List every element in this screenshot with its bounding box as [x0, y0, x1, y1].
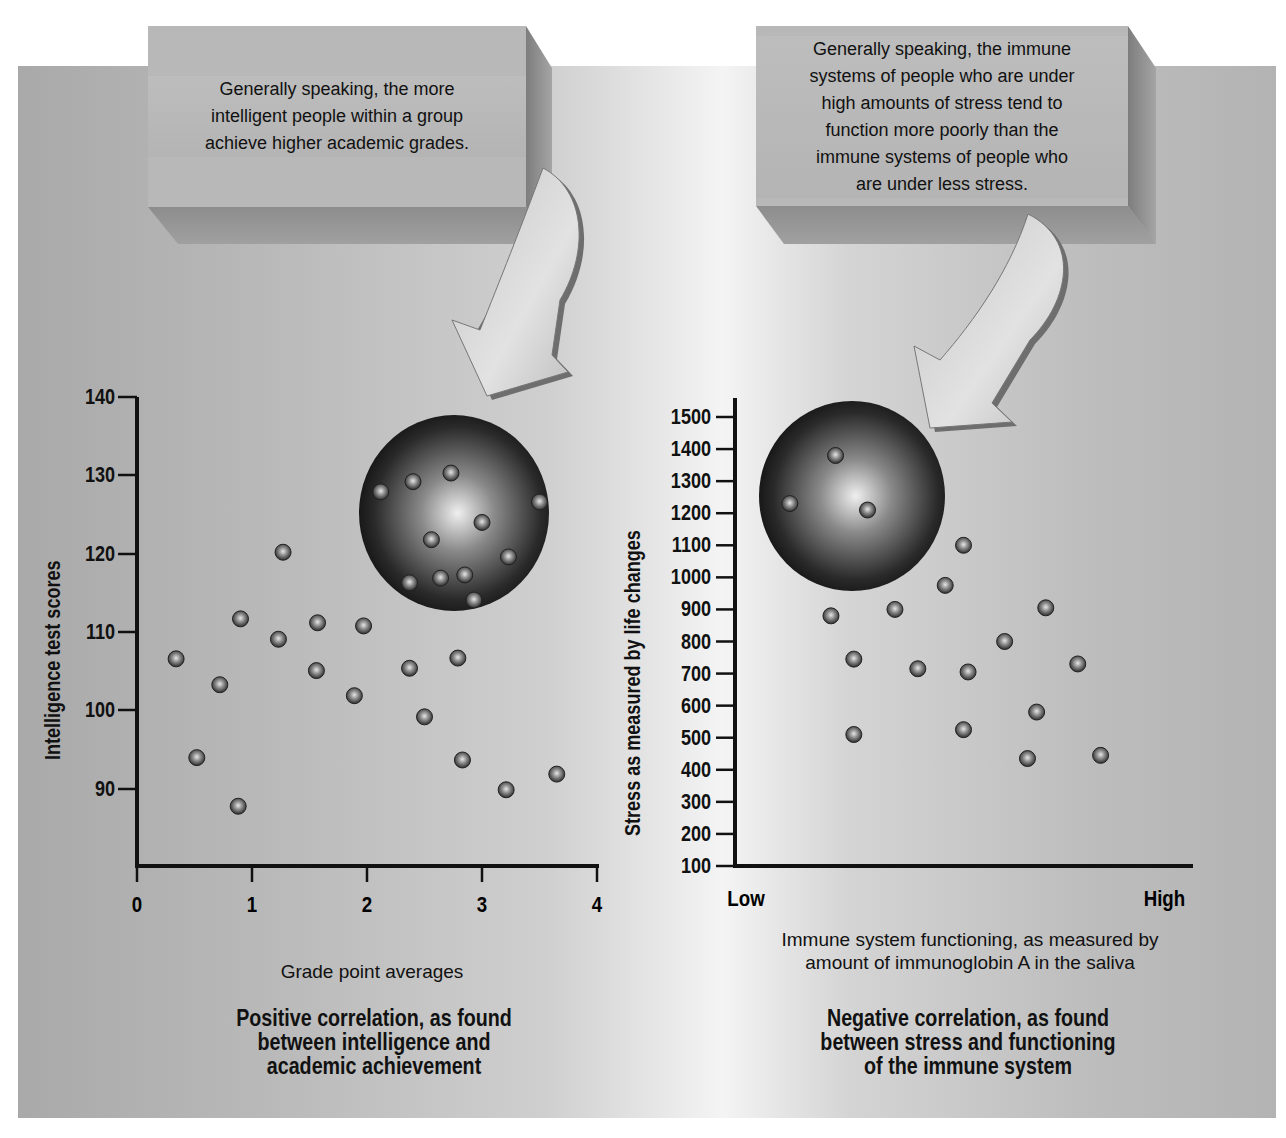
curved-arrow-icon: [452, 168, 584, 400]
data-point: [443, 465, 459, 481]
data-point: [189, 750, 205, 766]
data-point: [275, 544, 291, 560]
y-tick-label: 120: [66, 541, 115, 567]
y-tick-label: 90: [66, 776, 115, 802]
y-tick-label: 1400: [662, 436, 711, 462]
data-point: [474, 514, 490, 530]
data-point: [828, 447, 844, 463]
data-point: [1093, 747, 1109, 763]
y-tick-label: 600: [662, 693, 711, 719]
y-tick-label: 100: [662, 853, 711, 879]
data-point: [910, 661, 926, 677]
y-tick-label: 800: [662, 629, 711, 655]
y-tick-label: 1000: [662, 564, 711, 590]
x-tick-label: 0: [124, 892, 150, 918]
y-tick-label: 130: [66, 462, 115, 488]
left-y-axis-label: Intelligence test scores: [40, 560, 66, 760]
y-tick-label: 100: [66, 697, 115, 723]
data-point: [450, 650, 466, 666]
data-point: [423, 532, 439, 548]
y-tick-label: 1100: [662, 532, 711, 558]
data-point: [846, 651, 862, 667]
caption-line: Negative correlation, as found: [804, 1006, 1132, 1030]
y-tick-label: 700: [662, 661, 711, 687]
caption-line: between intelligence and: [210, 1030, 538, 1054]
y-tick-label: 1300: [662, 468, 711, 494]
data-point: [846, 727, 862, 743]
y-tick-label: 110: [66, 619, 115, 645]
data-point: [433, 570, 449, 586]
caption-line: Positive correlation, as found: [210, 1006, 538, 1030]
curved-arrow-icon: [914, 214, 1069, 432]
data-point: [230, 798, 246, 814]
data-point: [308, 663, 324, 679]
right-y-axis-label: Stress as measured by life changes: [620, 530, 646, 836]
left-chart-caption: Positive correlation, as found between i…: [210, 1006, 538, 1078]
x-tick-label: 3: [469, 892, 495, 918]
y-tick-label: 1200: [662, 500, 711, 526]
data-point: [402, 575, 418, 591]
highlight-sphere: [359, 415, 549, 611]
data-point: [346, 688, 362, 704]
data-point: [1070, 656, 1086, 672]
y-tick-label: 300: [662, 789, 711, 815]
data-point: [454, 752, 470, 768]
data-point: [532, 494, 548, 510]
data-point: [956, 537, 972, 553]
data-point: [310, 615, 326, 631]
data-point: [860, 502, 876, 518]
data-point: [498, 782, 514, 798]
data-point: [457, 567, 473, 583]
data-point: [417, 709, 433, 725]
data-point: [960, 664, 976, 680]
right-x-axis-label: Immune system functioning, as measured b…: [720, 928, 1220, 974]
x-axis-label-line: Immune system functioning, as measured b…: [720, 928, 1220, 951]
right-chart-caption: Negative correlation, as found between s…: [804, 1006, 1132, 1078]
x-high-label: High: [1144, 886, 1186, 912]
caption-line: of the immune system: [804, 1054, 1132, 1078]
y-tick-label: 140: [66, 384, 115, 410]
caption-line: academic achievement: [210, 1054, 538, 1078]
data-point: [466, 592, 482, 608]
data-point: [402, 660, 418, 676]
data-point: [168, 651, 184, 667]
y-tick-label: 200: [662, 821, 711, 847]
y-tick-label: 400: [662, 757, 711, 783]
data-point: [956, 722, 972, 738]
data-point: [500, 549, 516, 565]
data-point: [823, 608, 839, 624]
data-point: [1029, 704, 1045, 720]
x-axis-label-line: amount of immunoglobin A in the saliva: [720, 951, 1220, 974]
x-tick-label: 2: [354, 892, 380, 918]
data-point: [887, 601, 903, 617]
data-point: [1019, 751, 1035, 767]
data-point: [1038, 600, 1054, 616]
left-x-axis-label: Grade point averages: [222, 960, 522, 983]
data-point: [356, 618, 372, 634]
data-point: [549, 766, 565, 782]
data-point: [782, 496, 798, 512]
data-point: [405, 474, 421, 490]
data-point: [270, 631, 286, 647]
x-tick-label: 1: [239, 892, 265, 918]
y-tick-label: 1500: [662, 404, 711, 430]
y-tick-label: 500: [662, 725, 711, 751]
data-point: [937, 577, 953, 593]
caption-line: between stress and functioning: [804, 1030, 1132, 1054]
data-point: [373, 484, 389, 500]
x-low-label: Low: [727, 886, 764, 912]
x-tick-label: 4: [584, 892, 610, 918]
data-point: [233, 611, 249, 627]
y-tick-label: 900: [662, 596, 711, 622]
data-point: [997, 634, 1013, 650]
data-point: [212, 677, 228, 693]
